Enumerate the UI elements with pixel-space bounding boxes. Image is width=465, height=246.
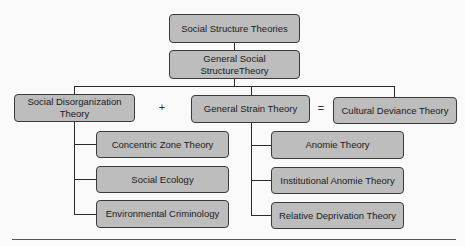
connector-left-branch-3 bbox=[74, 214, 96, 215]
node-concentric-zone-theory: Concentric Zone Theory bbox=[96, 131, 229, 158]
node-institutional-anomie-theory: Institutional Anomie Theory bbox=[271, 167, 404, 194]
equals-operator: = bbox=[314, 102, 328, 114]
connector-middle-branch-1 bbox=[251, 145, 271, 146]
connector-middle-spine bbox=[251, 123, 252, 216]
connector-horizontal-top bbox=[74, 86, 395, 87]
node-social-structure-theories: Social Structure Theories bbox=[169, 14, 300, 43]
connector-root-general bbox=[234, 43, 235, 50]
connector-general-down bbox=[234, 79, 235, 86]
node-general-social-structure-theory: General Social StructureTheory bbox=[169, 50, 300, 79]
node-cultural-deviance-theory: Cultural Deviance Theory bbox=[333, 97, 457, 124]
node-environmental-criminology: Environmental Criminology bbox=[96, 200, 229, 228]
node-social-disorganization-theory: Social Disorganization Theory bbox=[14, 94, 135, 122]
connector-left-drop bbox=[74, 86, 75, 94]
node-anomie-theory: Anomie Theory bbox=[271, 131, 404, 159]
connector-middle-drop bbox=[251, 86, 252, 95]
connector-middle-branch-2 bbox=[251, 180, 271, 181]
bottom-rule bbox=[12, 239, 456, 240]
node-relative-deprivation-theory: Relative Deprivation Theory bbox=[271, 202, 404, 229]
connector-middle-branch-3 bbox=[251, 215, 271, 216]
connector-left-spine bbox=[74, 122, 75, 215]
connector-right-drop bbox=[394, 86, 395, 97]
node-general-strain-theory: General Strain Theory bbox=[191, 95, 310, 123]
connector-left-branch-2 bbox=[74, 179, 96, 180]
plus-operator: + bbox=[155, 101, 169, 113]
connector-left-branch-1 bbox=[74, 144, 96, 145]
node-social-ecology: Social Ecology bbox=[96, 166, 229, 193]
